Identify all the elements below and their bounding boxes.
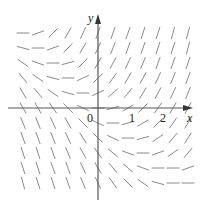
slope-segment [65, 28, 71, 38]
slope-segment [152, 151, 163, 155]
slope-segment [18, 60, 28, 67]
slope-segment [80, 28, 85, 39]
slope-segment [79, 119, 87, 127]
slope-segment [33, 75, 43, 82]
slope-segment [36, 132, 40, 143]
slope-segment [169, 133, 177, 142]
slope-segment [21, 132, 25, 143]
slope-segment [81, 177, 86, 188]
slope-segment [47, 76, 59, 79]
slope-segment [66, 162, 70, 173]
slope-segment [123, 164, 132, 172]
slope-segment [156, 42, 160, 53]
slope-segment [62, 61, 74, 64]
slope-segment [170, 118, 177, 128]
slope-segment [111, 42, 116, 53]
slope-segment [47, 46, 58, 50]
slope-segment [32, 61, 43, 65]
slope-segment [51, 147, 55, 158]
slope-segment [171, 27, 174, 39]
slope-segment [124, 179, 132, 187]
origin-label: 0 [87, 111, 93, 125]
y-axis-arrowhead-icon [95, 14, 101, 24]
slope-segment [152, 181, 164, 184]
slope-segment [185, 133, 191, 143]
slope-segment [49, 29, 57, 37]
x-tick-label-1: 1 [129, 111, 135, 125]
slope-segment [62, 91, 74, 94]
slope-segment [50, 118, 55, 129]
slope-segment [21, 162, 25, 173]
slope-segment [64, 44, 72, 52]
slope-segment [126, 27, 130, 38]
slope-segment [80, 148, 86, 159]
slope-segment [141, 27, 145, 38]
slope-segment [186, 27, 189, 39]
slope-segment [153, 135, 163, 142]
slope-segment [51, 177, 55, 188]
slope-segment [17, 46, 29, 49]
slope-segment [170, 88, 175, 99]
slope-segment [78, 75, 89, 80]
slope-segment [184, 148, 192, 157]
slope-segment [48, 90, 58, 97]
slope-segment [34, 88, 42, 97]
slope-segment [186, 42, 189, 54]
slope-segment [182, 166, 193, 170]
slope-segment [79, 59, 87, 67]
slope-segment [171, 57, 175, 68]
slope-segment [36, 177, 40, 188]
slope-segment [126, 42, 130, 53]
slope-segment [51, 132, 56, 143]
slope-segment [109, 163, 117, 172]
slope-segment [141, 42, 145, 53]
slope-segment [21, 117, 26, 128]
slope-segment [140, 88, 146, 98]
x-axis-label: x [186, 111, 193, 125]
slope-segment [80, 43, 86, 53]
slope-segment [51, 162, 55, 173]
slope-segment [111, 27, 115, 38]
slope-segment [36, 117, 41, 128]
slope-segment [21, 177, 24, 189]
slope-segment [155, 88, 161, 99]
slope-segment [171, 72, 176, 83]
slope-segment [65, 118, 71, 128]
slope-segment [186, 87, 191, 98]
slope-segment [110, 58, 116, 69]
slope-segment [36, 147, 40, 158]
slope-segment [156, 57, 160, 68]
x-tick-label-2: 2 [160, 111, 166, 125]
slope-segment [108, 135, 119, 140]
slope-segment [66, 147, 71, 158]
slope-segment [110, 73, 117, 83]
slope-segment [138, 120, 148, 126]
slope-segment [65, 133, 70, 144]
slope-segment [186, 57, 190, 68]
slope-segment [156, 27, 160, 38]
slope-segment [80, 163, 85, 174]
slope-segment [171, 42, 175, 53]
slope-segment [155, 73, 160, 84]
slope-field-diagram: y x 0 1 2 [0, 0, 201, 208]
slope-segment [80, 133, 86, 143]
slope-segment [141, 57, 146, 68]
slope-segment [66, 177, 70, 188]
slope-segment [19, 73, 27, 82]
slope-segment [20, 88, 26, 98]
slope-segment [168, 150, 178, 157]
slope-segment [36, 162, 40, 173]
slope-segment [108, 149, 117, 157]
slope-segment [108, 89, 117, 97]
slope-segment [110, 178, 117, 188]
slope-segment [186, 72, 190, 83]
slope-segment [140, 73, 146, 84]
slope-segment [124, 88, 132, 97]
slope-segment [122, 151, 133, 155]
slope-segment [21, 147, 25, 158]
slope-segment [137, 166, 148, 170]
y-axis-label: y [87, 11, 94, 25]
slope-segment [125, 73, 131, 83]
slope-segment [138, 180, 148, 187]
slope-segment [137, 136, 149, 139]
